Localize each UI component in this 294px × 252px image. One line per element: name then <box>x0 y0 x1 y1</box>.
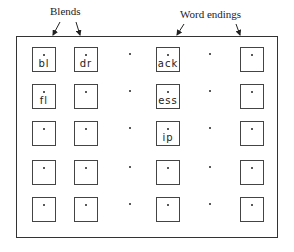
box-text: ess <box>157 95 179 106</box>
separator-dot <box>209 53 211 55</box>
box-dot <box>251 128 253 130</box>
letter-box <box>32 197 56 222</box>
letter-box <box>240 197 264 222</box>
letter-box <box>32 160 56 185</box>
box-text: fl <box>33 95 55 106</box>
box-dot <box>167 204 169 206</box>
box-dot <box>85 204 87 206</box>
separator-dot <box>209 166 211 168</box>
letter-box <box>240 121 264 146</box>
letter-box <box>156 197 180 222</box>
separator-dot <box>129 53 131 55</box>
box-dot <box>251 167 253 169</box>
letter-box <box>74 160 98 185</box>
letter-box <box>74 121 98 146</box>
box-dot <box>85 91 87 93</box>
box-dot <box>43 128 45 130</box>
separator-dot <box>129 203 131 205</box>
box-dot <box>251 204 253 206</box>
separator-dot <box>129 166 131 168</box>
letter-box <box>32 121 56 146</box>
letter-box <box>74 197 98 222</box>
box-dot <box>85 128 87 130</box>
letter-box: fl <box>32 84 56 109</box>
letter-box: bl <box>32 47 56 72</box>
box-dot <box>251 91 253 93</box>
letter-box <box>240 160 264 185</box>
word-endings-label: Word endings <box>180 8 241 20</box>
blends-label: Blends <box>50 5 81 17</box>
letter-box: ip <box>156 121 180 146</box>
letter-box <box>156 160 180 185</box>
letter-box <box>74 84 98 109</box>
letter-box <box>240 47 264 72</box>
letter-box <box>240 84 264 109</box>
separator-dot <box>129 127 131 129</box>
box-dot <box>251 54 253 56</box>
box-dot <box>43 91 45 93</box>
letter-box: dr <box>74 47 98 72</box>
letter-box: ack <box>156 47 180 72</box>
separator-dot <box>209 127 211 129</box>
box-text: bl <box>33 58 55 69</box>
box-text: ack <box>157 58 179 69</box>
box-dot <box>43 204 45 206</box>
box-dot <box>167 128 169 130</box>
box-dot <box>167 54 169 56</box>
letter-box: ess <box>156 84 180 109</box>
box-dot <box>43 54 45 56</box>
box-dot <box>85 167 87 169</box>
box-dot <box>167 167 169 169</box>
box-text: ip <box>157 132 179 143</box>
box-dot <box>85 54 87 56</box>
separator-dot <box>129 90 131 92</box>
separator-dot <box>209 90 211 92</box>
pointer-arrows <box>0 0 294 40</box>
box-text: dr <box>75 58 97 69</box>
box-dot <box>167 91 169 93</box>
separator-dot <box>209 203 211 205</box>
box-dot <box>43 167 45 169</box>
